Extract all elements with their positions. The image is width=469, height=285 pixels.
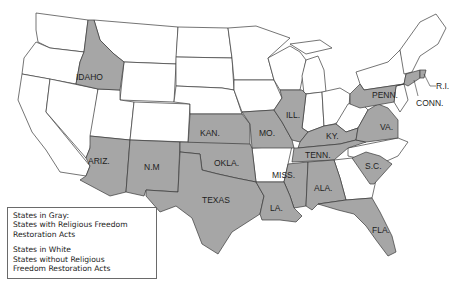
label-arizona: ARIZ. [88,156,110,166]
label-kansas: KAN. [200,128,220,138]
label-louisiana: LA. [270,203,283,213]
label-new-mexico: N.M [144,162,160,172]
label-oklahoma: OKLA. [214,158,239,168]
label-florida: FLA. [372,225,390,235]
callout-line-rhode-island [424,74,436,86]
state-new-england [400,14,446,74]
label-tennessee: TENN. [305,150,331,160]
legend-white-line1: States without Religious [13,255,151,264]
label-alabama: ALA. [314,183,332,193]
label-rhode-island: R.I. [436,81,449,91]
callout-line-connecticut [414,80,418,96]
state-iowa [234,80,282,112]
label-south-carolina: S.C. [365,161,382,171]
label-illinois: ILL. [286,110,300,120]
state-south-dakota [176,57,234,90]
label-idaho: IDAHO [76,72,103,82]
label-mississippi: MISS. [272,170,295,180]
label-texas: TEXAS [202,195,230,205]
label-pennsylvania: PENN. [372,90,398,100]
state-colorado [130,102,190,142]
label-virginia: VA. [380,122,393,132]
legend-white-heading: States in White [13,245,151,254]
label-kentucky: KY. [326,131,339,141]
legend-gray-line2: Restoration Acts [13,230,151,239]
legend-gray-line1: States with Religious Freedom [13,220,151,229]
state-new-york [356,50,406,90]
legend-gray-heading: States in Gray: [13,211,151,220]
map-legend: States in Gray: States with Religious Fr… [7,207,157,279]
label-connecticut: CONN. [416,98,443,108]
legend-white-line2: Freedom Restoration Acts [13,264,151,273]
label-missouri: MO. [259,128,275,138]
state-wyoming [120,62,176,102]
state-north-dakota [176,27,232,58]
